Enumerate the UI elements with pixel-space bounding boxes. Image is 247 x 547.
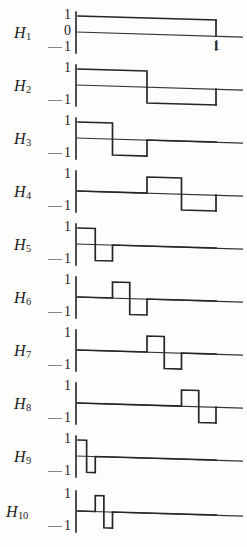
wavelet-plot-h1 bbox=[0, 6, 247, 59]
wavelet-plot-h8 bbox=[0, 377, 247, 430]
wavelet-plot-h7 bbox=[0, 324, 247, 377]
waveform-path bbox=[78, 16, 216, 20]
waveform-path bbox=[78, 282, 216, 315]
wavelet-row-h10: H101—1 bbox=[0, 485, 247, 538]
wavelet-plot-h2 bbox=[0, 59, 247, 112]
zero-baseline bbox=[76, 32, 243, 37]
wavelet-row-h8: H81—1 bbox=[0, 377, 247, 430]
wavelet-plot-h10 bbox=[0, 485, 247, 538]
wavelet-row-h2: H21—1 bbox=[0, 59, 247, 112]
zero-baseline bbox=[76, 85, 243, 90]
waveform-path bbox=[78, 177, 216, 211]
wavelet-row-h1: H110—11 bbox=[0, 6, 247, 59]
wavelet-row-h6: H61—1 bbox=[0, 271, 247, 324]
wavelet-row-h7: H71—1 bbox=[0, 324, 247, 377]
wavelet-plot-h3 bbox=[0, 112, 247, 165]
wavelet-row-h3: H31—1 bbox=[0, 112, 247, 165]
wavelet-row-h5: H51—1 bbox=[0, 218, 247, 271]
wavelet-plot-h4 bbox=[0, 165, 247, 218]
waveform-path bbox=[78, 440, 216, 473]
wavelet-row-h9: H91—1 bbox=[0, 430, 247, 483]
haar-wavelet-figure: H110—11H21—1H31—1H41—1H51—1H61—1H71—1H81… bbox=[0, 0, 247, 547]
wavelet-plot-h5 bbox=[0, 218, 247, 271]
waveform-path bbox=[78, 336, 216, 369]
waveform-path bbox=[78, 69, 216, 105]
wavelet-plot-h6 bbox=[0, 271, 247, 324]
x-axis-tick-label: 1 bbox=[213, 38, 220, 54]
wavelet-plot-h9 bbox=[0, 430, 247, 483]
wavelet-row-h4: H41—1 bbox=[0, 165, 247, 218]
